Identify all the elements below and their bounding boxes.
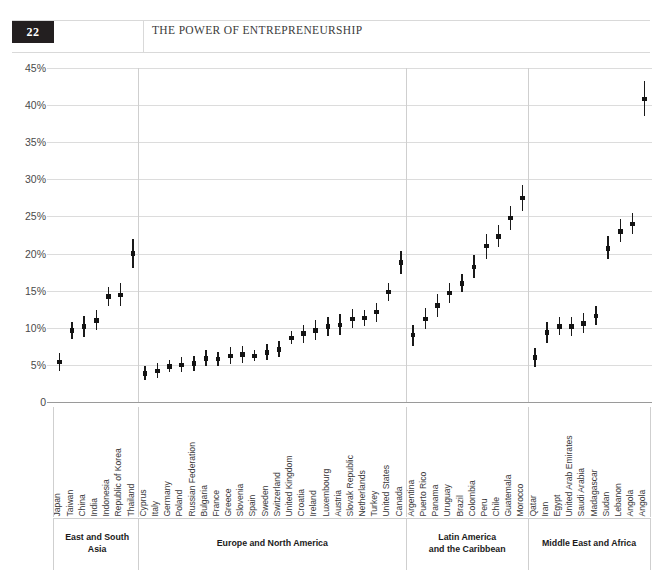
x-axis-label: Qatar (529, 496, 538, 518)
data-point-mark (437, 68, 438, 402)
data-point-mark (522, 68, 523, 402)
value-marker (216, 357, 221, 362)
data-point-mark (266, 68, 267, 402)
value-marker (533, 355, 538, 360)
value-marker (204, 356, 209, 361)
x-axis-label: Austria (334, 490, 343, 517)
data-point-mark (108, 68, 109, 402)
y-axis-tick-label: 10% (2, 322, 46, 334)
data-point-mark (157, 68, 158, 402)
value-marker (167, 364, 172, 369)
x-axis-label: Ireland (310, 491, 319, 517)
value-marker (326, 324, 331, 329)
group-separator (650, 518, 651, 570)
value-marker (374, 310, 379, 315)
data-point-mark (620, 68, 621, 402)
x-axis-category-labels: JapanTaiwanChinaIndiaIndonesiaRepublic o… (47, 407, 652, 517)
value-marker (447, 291, 452, 296)
value-marker (581, 321, 586, 326)
y-axis-tick-label: 35% (2, 136, 46, 148)
data-point-mark (510, 68, 511, 402)
x-axis-label: Turkey (371, 491, 380, 517)
value-marker (82, 324, 87, 329)
data-point-mark (327, 68, 328, 402)
data-point-mark (59, 68, 60, 402)
data-point-mark (583, 68, 584, 402)
value-marker (70, 328, 75, 333)
data-point-mark (644, 68, 645, 402)
x-axis-label: France (212, 490, 221, 517)
data-point-mark (632, 68, 633, 402)
data-point-mark (498, 68, 499, 402)
x-axis-label: Spain (249, 495, 258, 517)
x-axis-label: Lebanon (614, 484, 623, 517)
header-vertical-rule (143, 20, 144, 53)
x-axis-label: Taiwan (66, 490, 75, 517)
data-point-mark (96, 68, 97, 402)
x-axis-label: Republic of Korea (115, 449, 124, 517)
region-label: Europe and North America (138, 518, 406, 570)
data-point-mark (400, 68, 401, 402)
x-axis-label: Madagascar (590, 470, 599, 517)
data-point-mark (71, 68, 72, 402)
data-point-mark (169, 68, 170, 402)
x-axis-label: Angola (627, 490, 636, 517)
data-point-mark (181, 68, 182, 402)
value-marker (435, 303, 440, 308)
x-axis-label: United Arab Emirates (566, 436, 575, 517)
data-point-mark (83, 68, 84, 402)
header-rule-bottom (12, 52, 650, 53)
x-axis-label: Japan (54, 494, 63, 517)
value-marker (642, 97, 647, 102)
x-axis-label: Sudan (602, 492, 611, 517)
header-rule-top (12, 20, 650, 21)
value-marker (265, 350, 270, 355)
value-marker (289, 336, 294, 341)
x-axis-label: Argentina (407, 480, 416, 517)
x-axis-label: Cyprus (139, 490, 148, 517)
data-point-mark (546, 68, 547, 402)
value-marker (57, 360, 62, 365)
data-point-mark (230, 68, 231, 402)
group-separator (528, 68, 529, 402)
value-marker (411, 333, 416, 338)
y-axis: 45%40%35%30%25%20%15%10%5%0 (0, 68, 46, 402)
value-marker (240, 352, 245, 357)
value-marker (118, 293, 123, 298)
data-point-mark (595, 68, 596, 402)
value-marker (594, 314, 599, 319)
x-axis-label: Bulgaria (200, 485, 209, 517)
value-marker (630, 222, 635, 227)
page-number: 22 (12, 21, 54, 43)
x-axis-label: Saudi Arabia (578, 468, 587, 517)
value-marker (545, 330, 550, 335)
value-marker (520, 196, 525, 201)
value-marker (228, 354, 233, 359)
x-axis-label: Canada (395, 487, 404, 517)
data-point-mark (315, 68, 316, 402)
y-axis-tick-label: 5% (2, 359, 46, 371)
data-point-mark (242, 68, 243, 402)
x-axis-label: Poland (176, 490, 185, 517)
data-point-mark (254, 68, 255, 402)
y-axis-tick-label: 40% (2, 99, 46, 111)
x-axis-label: Egypt (553, 495, 562, 517)
value-marker (460, 281, 465, 286)
x-axis-label: Sweden (261, 486, 270, 517)
data-point-mark (425, 68, 426, 402)
x-axis-label: Thailand (127, 484, 136, 517)
data-point-mark (486, 68, 487, 402)
group-separator (650, 407, 651, 517)
data-point-mark (217, 68, 218, 402)
chart: 45%40%35%30%25%20%15%10%5%0 JapanTaiwanC… (0, 55, 662, 535)
value-marker (618, 229, 623, 234)
data-point-mark (388, 68, 389, 402)
y-axis-tick-label: 20% (2, 248, 46, 260)
x-axis-label: United States (383, 465, 392, 517)
data-point-mark (571, 68, 572, 402)
x-axis-label: Netherlands (358, 471, 367, 517)
value-marker (386, 290, 391, 295)
x-axis-label: Panama (432, 485, 441, 517)
data-point-mark (412, 68, 413, 402)
x-axis-label: Angola (639, 490, 648, 517)
